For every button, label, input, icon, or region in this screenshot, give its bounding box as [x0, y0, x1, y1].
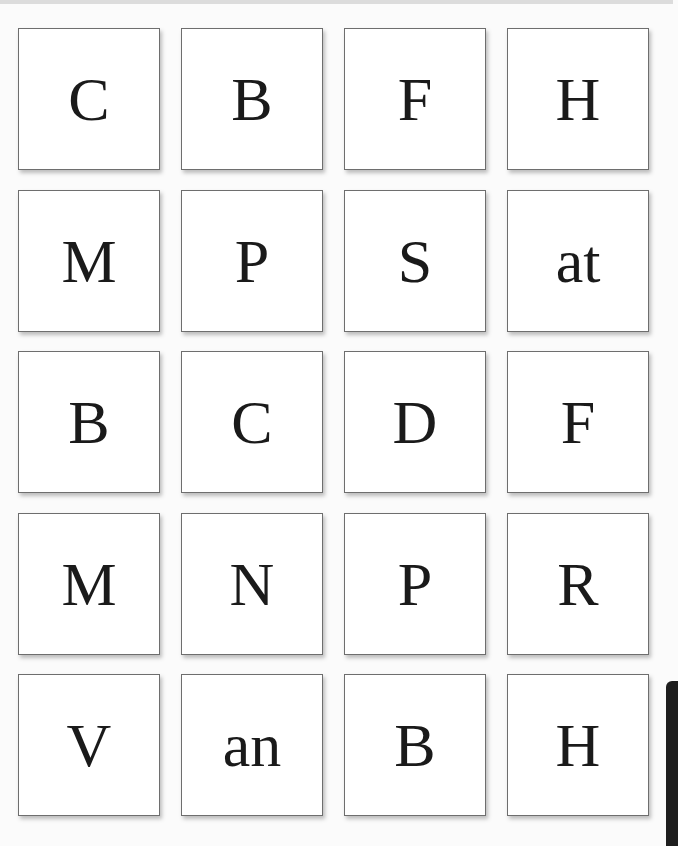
- card-text: H: [556, 714, 601, 776]
- letter-card: H: [507, 674, 649, 816]
- card-text: B: [68, 391, 109, 453]
- letter-card: F: [507, 351, 649, 493]
- card-text: F: [398, 68, 432, 130]
- top-strip: [0, 0, 673, 4]
- letter-card: H: [507, 28, 649, 170]
- card-text: N: [230, 553, 275, 615]
- card-text: P: [398, 553, 432, 615]
- card-text: R: [557, 553, 598, 615]
- letter-card: F: [344, 28, 486, 170]
- card-text: S: [398, 230, 432, 292]
- letter-card: M: [18, 513, 160, 655]
- letter-card: at: [507, 190, 649, 332]
- card-text: F: [561, 391, 595, 453]
- letter-card: an: [181, 674, 323, 816]
- card-text: M: [61, 553, 116, 615]
- letter-card: S: [344, 190, 486, 332]
- letter-card: B: [181, 28, 323, 170]
- letter-card: P: [181, 190, 323, 332]
- card-text: H: [556, 68, 601, 130]
- card-text: V: [67, 714, 112, 776]
- letter-card: N: [181, 513, 323, 655]
- letter-card: P: [344, 513, 486, 655]
- card-text: C: [68, 68, 109, 130]
- card-text: M: [61, 230, 116, 292]
- card-text: D: [393, 391, 438, 453]
- letter-card: D: [344, 351, 486, 493]
- card-text: at: [556, 230, 601, 292]
- letter-card: B: [344, 674, 486, 816]
- card-text: an: [223, 714, 282, 776]
- letter-card: V: [18, 674, 160, 816]
- card-text: B: [394, 714, 435, 776]
- page-edge-tab: [666, 681, 678, 846]
- letter-card: R: [507, 513, 649, 655]
- card-text: B: [231, 68, 272, 130]
- letter-card: C: [181, 351, 323, 493]
- card-text: P: [235, 230, 269, 292]
- letter-card: B: [18, 351, 160, 493]
- letter-card: C: [18, 28, 160, 170]
- card-grid: C B F H M P S at B C D F M N P R V an B …: [18, 28, 649, 816]
- card-text: C: [231, 391, 272, 453]
- letter-card: M: [18, 190, 160, 332]
